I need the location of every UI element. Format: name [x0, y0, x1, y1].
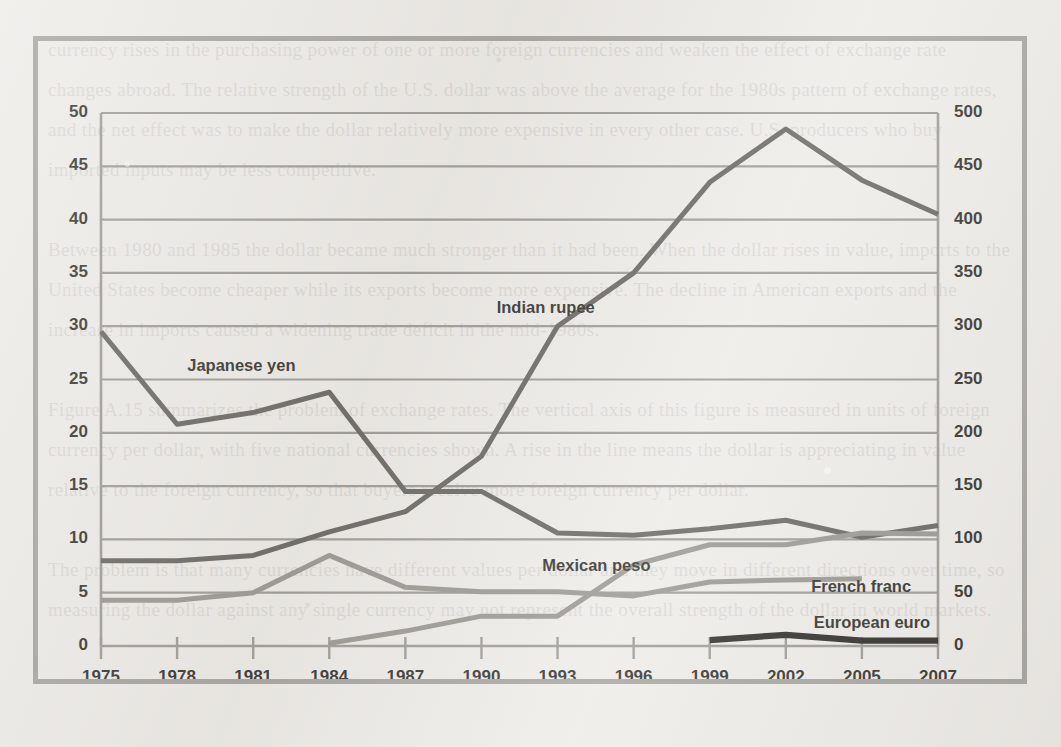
x-axis-tick-marks — [101, 637, 938, 659]
series-annotation-european-euro: European euro — [814, 613, 930, 632]
series-line-indian-rupee — [101, 129, 938, 561]
currency-exchange-rate-line-chart — [0, 0, 1061, 747]
series-annotation-japanese-yen: Japanese yen — [187, 356, 295, 375]
gridlines-group — [101, 113, 938, 646]
data-series-group — [101, 129, 938, 643]
series-annotation-french-franc: French franc — [811, 577, 911, 596]
series-line-european-euro — [710, 635, 938, 641]
series-annotation-indian-rupee: Indian rupee — [497, 298, 595, 317]
series-annotation-mexican-peso: Mexican peso — [542, 556, 650, 575]
